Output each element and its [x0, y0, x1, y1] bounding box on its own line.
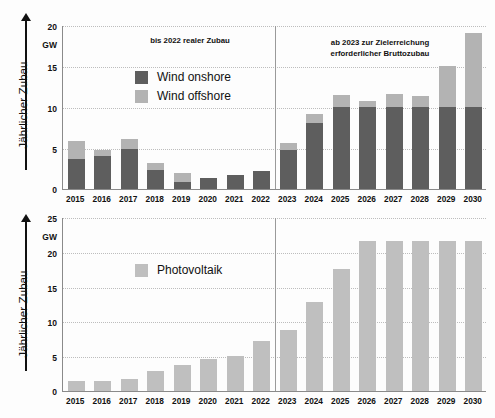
bar-group-wind: [63, 26, 486, 189]
chart-wind: Jährlicher Zubau GW 20 15 10 5 0 bis 202…: [0, 0, 495, 209]
x-axis-label-2027: 2027: [380, 396, 407, 406]
chart-photovoltaic: Jährlicher Zubau GW 25 20 15 10 5 0: [0, 209, 495, 418]
x-axis-label-2018: 2018: [142, 396, 169, 406]
bar-pv-2022: [253, 341, 270, 391]
x-axis-label-2028: 2028: [407, 396, 434, 406]
x-axis-label-2022: 2022: [248, 396, 275, 406]
bar-wind-2021: [227, 175, 244, 189]
y-axis-unit-pv: GW: [42, 232, 57, 242]
bar-pv-2021: [227, 356, 244, 391]
bar-wind-2018: [147, 163, 164, 189]
x-axis-label-2029: 2029: [433, 194, 460, 204]
ytick-20: 20: [48, 22, 57, 32]
bar-pv-2028: [412, 241, 429, 391]
x-axis-label-2026: 2026: [354, 396, 381, 406]
y-axis-title-wind: Jährlicher Zubau: [0, 0, 34, 209]
bar-segment-wind-offshore-2027: [386, 94, 403, 107]
bar-wind-2030: [465, 33, 482, 189]
bar-segment-photovoltaik-2023: [280, 330, 297, 391]
bar-segment-photovoltaik-2015: [68, 381, 85, 391]
bar-pv-2026: [359, 241, 376, 391]
x-axis-labels-pv: 2015201620172018201920202021202220232024…: [62, 394, 486, 410]
bar-pv-2025: [333, 269, 350, 391]
bar-pv-2018: [147, 371, 164, 391]
x-axis-label-2027: 2027: [380, 194, 407, 204]
x-axis-label-2020: 2020: [195, 194, 222, 204]
bar-pv-2023: [280, 330, 297, 391]
x-axis-label-2023: 2023: [274, 396, 301, 406]
bar-segment-wind-offshore-2019: [174, 173, 191, 182]
ytick-0: 0: [52, 185, 57, 195]
bar-segment-photovoltaik-2030: [465, 241, 482, 391]
bar-segment-wind-offshore-2015: [68, 141, 85, 159]
bar-segment-photovoltaik-2026: [359, 241, 376, 391]
bar-segment-wind-offshore-2030: [465, 33, 482, 107]
x-axis-label-2024: 2024: [301, 396, 328, 406]
x-axis-label-2021: 2021: [221, 194, 248, 204]
bar-segment-wind-onshore-2026: [359, 107, 376, 189]
bar-group-pv: [63, 218, 486, 391]
bar-segment-wind-onshore-2016: [94, 156, 111, 189]
figure-root: Jährlicher Zubau GW 20 15 10 5 0 bis 202…: [0, 0, 495, 418]
x-axis-label-2023: 2023: [274, 194, 301, 204]
x-axis-label-2015: 2015: [62, 396, 89, 406]
x-axis-labels-wind: 2015201620172018201920202021202220232024…: [62, 192, 486, 208]
x-axis-label-2017: 2017: [115, 194, 142, 204]
x-axis-label-2015: 2015: [62, 194, 89, 204]
x-axis-label-2016: 2016: [89, 194, 116, 204]
bar-pv-2017: [121, 379, 138, 391]
bar-wind-2028: [412, 96, 429, 189]
bar-segment-wind-offshore-2023: [280, 143, 297, 150]
x-axis-label-2019: 2019: [168, 396, 195, 406]
bar-wind-2016: [94, 150, 111, 189]
bar-segment-photovoltaik-2017: [121, 379, 138, 391]
bar-segment-wind-onshore-2028: [412, 107, 429, 189]
bar-segment-photovoltaik-2022: [253, 341, 270, 391]
bar-segment-wind-onshore-2018: [147, 170, 164, 189]
x-axis-label-2022: 2022: [248, 194, 275, 204]
bar-segment-photovoltaik-2028: [412, 241, 429, 391]
ytick-15: 15: [48, 284, 57, 294]
bar-wind-2020: [200, 178, 217, 189]
bar-wind-2025: [333, 95, 350, 189]
bar-wind-2022: [253, 171, 270, 189]
bar-wind-2017: [121, 139, 138, 189]
ytick-0: 0: [52, 387, 57, 397]
bar-segment-wind-offshore-2028: [412, 96, 429, 107]
bar-wind-2019: [174, 173, 191, 189]
bar-segment-wind-offshore-2025: [333, 95, 350, 107]
bar-segment-photovoltaik-2020: [200, 359, 217, 391]
y-axis-unit-wind: GW: [42, 40, 57, 50]
bar-wind-2015: [68, 141, 85, 189]
plot-area-wind: GW 20 15 10 5 0 bis 2022 realer Zubau ab…: [62, 26, 486, 190]
x-axis-label-2030: 2030: [460, 194, 487, 204]
bar-segment-wind-onshore-2017: [121, 149, 138, 189]
bar-segment-photovoltaik-2025: [333, 269, 350, 391]
ytick-20: 20: [48, 249, 57, 259]
bar-segment-photovoltaik-2027: [386, 241, 403, 391]
x-axis-label-2016: 2016: [89, 396, 116, 406]
x-axis-label-2021: 2021: [221, 396, 248, 406]
ytick-10: 10: [48, 318, 57, 328]
bar-segment-wind-onshore-2020: [200, 178, 217, 189]
bar-wind-2023: [280, 143, 297, 189]
bar-segment-photovoltaik-2024: [306, 302, 323, 391]
bar-segment-wind-onshore-2019: [174, 182, 191, 189]
x-axis-label-2026: 2026: [354, 194, 381, 204]
bar-segment-wind-onshore-2023: [280, 150, 297, 189]
bar-wind-2024: [306, 114, 323, 189]
bar-wind-2027: [386, 94, 403, 189]
x-axis-label-2020: 2020: [195, 396, 222, 406]
x-axis-label-2025: 2025: [327, 194, 354, 204]
x-axis-label-2019: 2019: [168, 194, 195, 204]
bar-pv-2016: [94, 381, 111, 391]
bar-segment-photovoltaik-2019: [174, 365, 191, 391]
x-axis-label-2030: 2030: [460, 396, 487, 406]
ytick-15: 15: [48, 63, 57, 73]
bar-pv-2019: [174, 365, 191, 391]
x-axis-label-2018: 2018: [142, 194, 169, 204]
x-axis-label-2028: 2028: [407, 194, 434, 204]
x-axis-label-2025: 2025: [327, 396, 354, 406]
ytick-10: 10: [48, 104, 57, 114]
bar-segment-wind-offshore-2029: [439, 66, 456, 107]
